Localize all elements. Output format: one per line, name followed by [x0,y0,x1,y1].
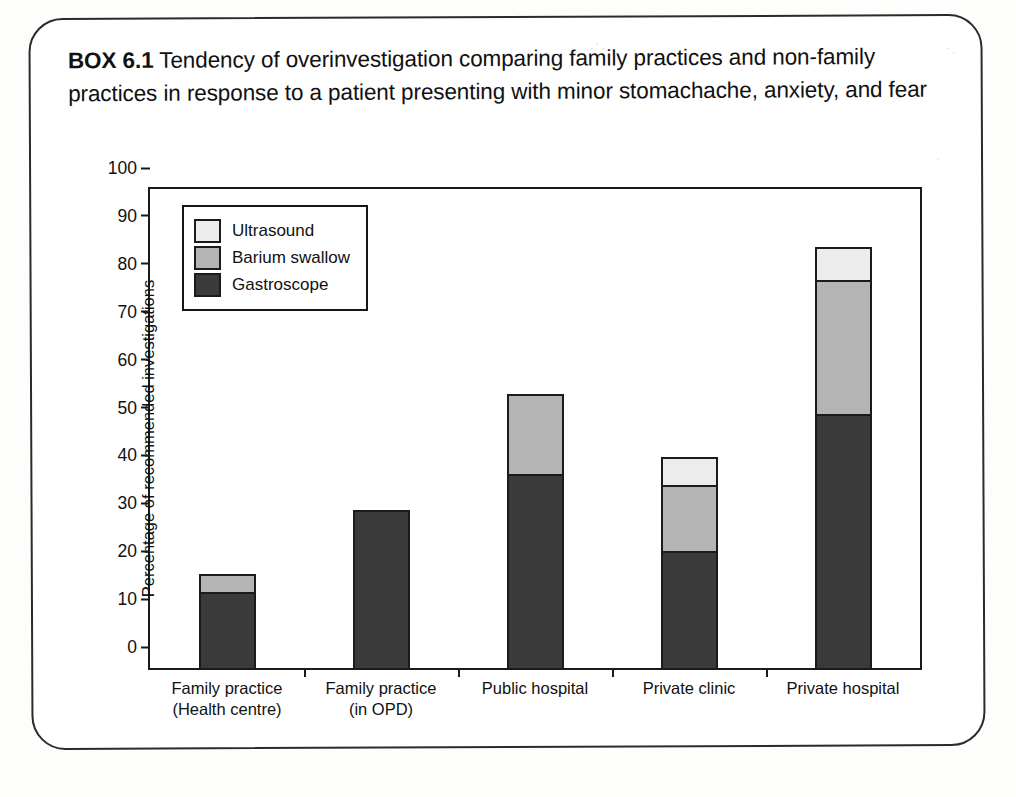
y-tick-label: 70 [118,301,141,322]
y-tick-20: 20 [118,541,150,562]
bar-stack [353,510,410,668]
x-axis-label-line: Family practice [326,678,437,699]
legend-swatch [194,219,221,243]
y-tick-90: 90 [118,205,150,226]
bar-segment-gastroscope [507,474,564,668]
y-tick-label: 60 [118,349,141,370]
y-tick-label: 30 [118,493,141,514]
y-tick-mark [141,263,150,265]
x-tick-mark [304,668,306,677]
y-tick-10: 10 [118,589,150,610]
y-tick-60: 60 [118,349,150,370]
bar-segment-ultrasound [815,247,872,281]
y-tick-mark [141,407,150,409]
legend-label: Barium swallow [232,248,350,268]
y-tick-label: 50 [118,397,141,418]
legend-item-barium-swallow: Barium swallow [194,246,350,270]
plot-frame: Percentage of recommended investigations… [148,187,922,670]
y-tick-label: 0 [127,637,141,658]
y-tick-80: 80 [118,253,150,274]
y-tick-label: 80 [118,253,141,274]
bar-segment-ultrasound [661,457,718,484]
chart-legend: UltrasoundBarium swallowGastroscope [182,205,368,311]
x-axis-label-line: Family practice [172,678,283,699]
bar-segment-barium-swallow [815,280,872,414]
y-tick-50: 50 [118,397,150,418]
y-tick-30: 30 [118,493,150,514]
chart-figure: Percentage of recommended investigations… [0,0,1016,797]
scanned-page-background: BOX 6.1 Tendency of overinvestigation co… [0,0,1016,797]
x-tick-mark [458,668,460,677]
y-tick-mark [141,598,150,600]
bar-stack [507,394,564,668]
x-axis-label: Private clinic [643,678,736,699]
bar-segment-barium-swallow [199,574,256,592]
y-tick-100: 100 [108,158,150,179]
y-tick-label: 90 [118,205,141,226]
x-axis-label: Family practice(in OPD) [326,678,437,720]
bar-segment-barium-swallow [507,394,564,474]
legend-label: Ultrasound [232,221,314,241]
legend-label: Gastroscope [232,275,328,295]
x-axis-label-line: Private hospital [787,678,900,699]
x-tick-mark [766,668,768,677]
y-tick-mark [141,502,150,504]
bar-segment-barium-swallow [661,485,718,552]
y-tick-70: 70 [118,301,150,322]
bar-stack [199,574,256,668]
bar-stack [815,247,872,668]
y-tick-mark [141,215,150,217]
y-tick-mark [141,167,150,169]
y-tick-mark [141,359,150,361]
y-tick-mark [141,646,150,648]
legend-swatch [194,273,221,297]
y-tick-label: 10 [118,589,141,610]
bar-stack [661,457,718,668]
y-tick-mark [141,454,150,456]
legend-item-gastroscope: Gastroscope [194,273,350,297]
x-axis-label: Public hospital [482,678,588,699]
x-axis-label: Private hospital [787,678,900,699]
x-axis-label-line: (Health centre) [172,699,283,720]
x-axis-label-line: Public hospital [482,678,588,699]
x-axis-label-line: Private clinic [643,678,736,699]
bar-segment-gastroscope [815,414,872,668]
bar-segment-gastroscope [353,510,410,668]
x-axis-label: Family practice(Health centre) [172,678,283,720]
x-axis-label-line: (in OPD) [326,699,437,720]
y-tick-mark [141,550,150,552]
y-tick-0: 0 [127,637,150,658]
legend-item-ultrasound: Ultrasound [194,219,350,243]
y-tick-label: 40 [118,445,141,466]
y-tick-label: 20 [118,541,141,562]
bar-segment-gastroscope [199,592,256,668]
y-tick-label: 100 [108,158,141,179]
x-tick-mark [612,668,614,677]
legend-swatch [194,246,221,270]
y-tick-mark [141,311,150,313]
y-tick-40: 40 [118,445,150,466]
bar-segment-gastroscope [661,551,718,668]
